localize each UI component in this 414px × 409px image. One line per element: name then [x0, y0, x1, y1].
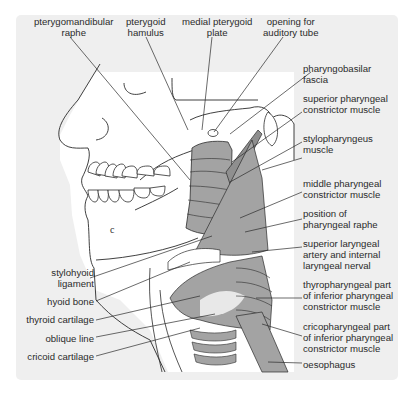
label-hyoid-bone: hyoid bone	[47, 296, 94, 307]
label-pharyngobasilar-fascia: pharyngobasilar fascia	[303, 63, 371, 85]
label-opening-for-auditory-tube: opening for auditory tube	[263, 16, 318, 38]
label-position-of-pharyngeal-raphe: position of pharyngeal raphe	[303, 208, 378, 230]
label-medial-pterygoid-plate: medial pterygoid plate	[182, 16, 252, 38]
svg-text:c: c	[110, 224, 115, 235]
label-superior-laryngeal-artery-nerve: superior laryngeal artery and internal l…	[303, 238, 380, 271]
label-cricopharyngeal-part: cricopharyngeal part of inferior pharyng…	[303, 321, 393, 354]
label-pterygomandibular-raphe: pterygomandibular raphe	[34, 16, 113, 38]
label-middle-pharyngeal-constrictor: middle pharyngeal constrictor muscle	[303, 178, 381, 200]
trachea-rings-icon	[190, 330, 236, 365]
label-oblique-line: oblique line	[45, 333, 94, 344]
label-superior-pharyngeal-constrictor: superior pharyngeal constrictor muscle	[303, 93, 388, 115]
label-pterygoid-hamulus: pterygoid hamulus	[126, 16, 165, 38]
label-oesophagus: oesophagus	[303, 359, 355, 370]
label-stylohyoid-ligament: stylohyoid ligament	[51, 267, 94, 289]
label-thyroid-cartilage: thyroid cartilage	[26, 314, 94, 325]
label-cricoid-cartilage: cricoid cartilage	[27, 351, 94, 362]
label-thyropharyngeal-part: thyropharyngeal part of inferior pharyng…	[303, 279, 393, 312]
label-stylopharyngeus-muscle: stylopharyngeus muscle	[303, 133, 373, 155]
